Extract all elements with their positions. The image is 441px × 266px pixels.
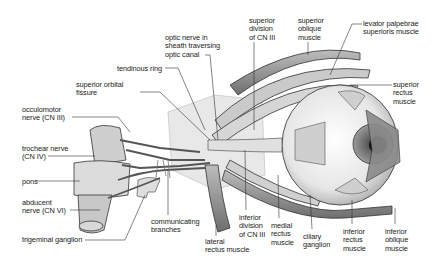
trigeminal-ganglion xyxy=(137,178,160,199)
label-inferior-rectus: inferior rectus muscle xyxy=(343,228,366,253)
label-inferior-oblique: inferior oblique muscle xyxy=(385,228,408,253)
label-superior-division: superior division of CN III xyxy=(249,17,275,42)
optic-nerve xyxy=(208,138,282,152)
cornea-tendon xyxy=(366,110,400,182)
label-occulomotor-nerve: occulomotor nerve (CN III) xyxy=(22,106,65,123)
label-tendinous-ring: tendinous ring xyxy=(117,65,162,73)
label-communicating-branches: communicating branches xyxy=(151,218,199,235)
label-superior-orbital-fissure: superior orbital fissure xyxy=(76,81,123,98)
eyeball xyxy=(282,85,400,205)
label-optic-nerve: optic nerve in sheath traversing optic c… xyxy=(165,34,220,59)
label-superior-oblique: superior oblique muscle xyxy=(298,17,324,42)
anatomy-diagram: optic nerve in sheath traversing optic c… xyxy=(0,0,441,266)
label-pons: pons xyxy=(22,178,38,186)
label-levator-palpebrae: levator palpebrae superioris muscle xyxy=(363,20,419,37)
label-superior-rectus: superior rectus muscle xyxy=(393,81,419,106)
label-abducent-nerve: abducent nerve (CN VI) xyxy=(22,199,66,216)
label-trigeminal-ganglion: trigeminal ganglion xyxy=(22,236,82,244)
label-trochlear-nerve: trochear nerve (CN IV) xyxy=(22,145,68,162)
label-ciliary-ganglion: ciliary ganglion xyxy=(303,233,330,250)
label-inferior-division: inferior division of CN III xyxy=(239,214,265,239)
label-lateral-rectus: lateral rectus muscle xyxy=(205,238,249,255)
orbit-illustration xyxy=(0,0,441,266)
label-medial-rectus: medial rectus muscle xyxy=(271,222,294,247)
